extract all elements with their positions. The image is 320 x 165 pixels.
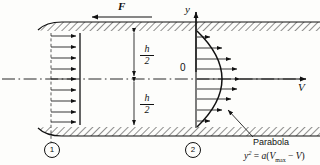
half-gap-upper-numerator: h xyxy=(140,44,154,55)
parabola-note: Parabola xyxy=(253,137,289,147)
origin-label: 0 xyxy=(180,63,186,73)
equation-equals: = xyxy=(254,151,259,161)
top-wall xyxy=(38,22,320,31)
station-marker-1: 1 xyxy=(44,142,60,158)
figure-canvas: F y V 0 h 2 h 2 Parabola y2 = a(Vmax − V… xyxy=(0,0,320,165)
half-gap-lower-denominator: 2 xyxy=(140,104,154,116)
half-gap-upper-denominator: 2 xyxy=(140,55,154,67)
v-axis-label: V xyxy=(298,82,305,93)
station-marker-2: 2 xyxy=(185,142,201,158)
half-gap-lower-numerator: h xyxy=(140,93,154,104)
half-gap-lower: h 2 xyxy=(140,93,154,115)
bottom-wall xyxy=(38,127,320,136)
force-label: F xyxy=(118,1,125,12)
equation-lhs-exponent: 2 xyxy=(248,149,251,156)
equation-vmax-subscript: max xyxy=(275,157,285,163)
y-axis-label: y xyxy=(185,4,190,15)
parabola-equation: y2 = a(Vmax − V) xyxy=(244,149,305,163)
half-gap-upper: h 2 xyxy=(140,44,154,66)
station1-velocity-profile xyxy=(51,33,80,125)
station2-velocity-profile xyxy=(197,31,240,127)
equation-close-paren: ) xyxy=(302,151,305,161)
equation-minus: − xyxy=(288,151,293,161)
